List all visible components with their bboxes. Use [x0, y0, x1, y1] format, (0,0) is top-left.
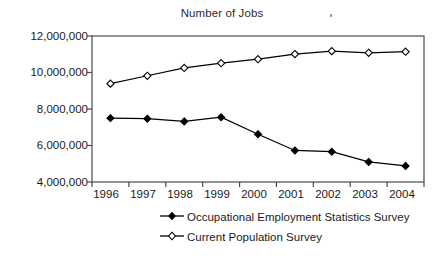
data-point-marker	[255, 131, 262, 138]
y-axis-ticks	[87, 36, 92, 182]
data-point-marker	[254, 56, 261, 63]
data-point-marker	[218, 60, 225, 67]
data-point-marker	[402, 48, 409, 55]
legend-markers	[160, 212, 184, 240]
legend-marker-cps	[160, 232, 184, 240]
data-point-marker	[402, 163, 409, 170]
x-axis-ticks	[92, 182, 424, 187]
data-point-marker	[181, 118, 188, 125]
data-point-marker	[107, 80, 114, 87]
data-point-marker	[144, 72, 151, 79]
plot-svg	[0, 0, 444, 261]
data-point-marker	[107, 115, 114, 122]
chart-container: Number of Jobs 12,000,000 10,000,000 8,0…	[0, 0, 444, 261]
data-point-marker	[181, 64, 188, 71]
data-point-marker	[218, 114, 225, 121]
data-point-marker	[328, 48, 335, 55]
series-cps	[107, 48, 409, 88]
data-point-marker	[365, 159, 372, 166]
series-line	[110, 117, 405, 166]
legend-marker-oes	[160, 212, 184, 220]
data-point-marker	[291, 50, 298, 57]
series-oes	[107, 114, 409, 170]
data-point-marker	[365, 49, 372, 56]
data-series-layer	[107, 48, 409, 170]
data-point-marker	[328, 148, 335, 155]
data-point-marker	[144, 115, 151, 122]
data-point-marker	[291, 147, 298, 154]
